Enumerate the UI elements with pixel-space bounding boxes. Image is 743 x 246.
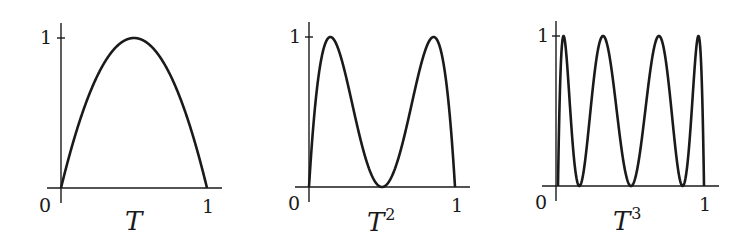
chart-panel-t3: 1 0 1 T3 [0, 0, 743, 246]
x-tick-label: 1 [699, 195, 711, 214]
title-exponent: 3 [631, 204, 641, 223]
y-tick-label: 1 [537, 26, 549, 45]
panel-title: T3 [613, 206, 642, 234]
x-origin-label: 0 [535, 193, 547, 212]
curve-line [558, 36, 704, 186]
